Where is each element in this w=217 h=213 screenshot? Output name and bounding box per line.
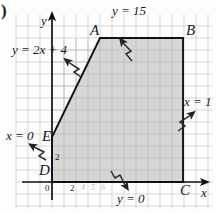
pencil-mark-6: 6 — [101, 184, 105, 192]
vertex-label-C: C — [180, 183, 190, 198]
constraint-label-slant: y = 2x + 4 — [12, 43, 67, 56]
vertex-label-B: B — [186, 23, 195, 38]
constraint-label-y15: y = 15 — [112, 4, 146, 17]
graph-figure: ) y x 0 2 2 A B C D E y = 15 y = 2x + 4 … — [0, 0, 217, 213]
arrow-slant — [66, 60, 81, 77]
x-axis-label: x — [201, 186, 207, 199]
constraint-label-xright: x = 1 — [184, 95, 212, 108]
pencil-mark-5: 5 — [91, 184, 95, 192]
question-marker: ) — [1, 2, 7, 19]
vertex-label-D: D — [39, 163, 50, 178]
vertex-label-A: A — [90, 23, 99, 38]
tick-y-2: 2 — [55, 153, 60, 162]
y-axis-label: y — [41, 14, 47, 27]
pencil-mark-4: 4 — [81, 184, 85, 192]
constraint-label-x0: x = 0 — [6, 129, 34, 142]
vertex-label-E: E — [42, 129, 51, 144]
tick-origin: 0 — [45, 184, 50, 193]
constraint-label-y0: y = 0 — [117, 192, 145, 205]
tick-x-2: 2 — [70, 184, 75, 193]
